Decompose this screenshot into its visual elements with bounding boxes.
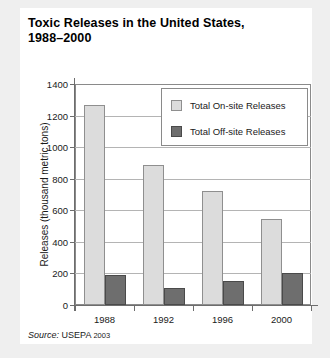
y-axis-tick	[70, 147, 75, 148]
y-axis-tick-label: 1000	[47, 142, 68, 153]
x-axis-tick	[311, 305, 312, 311]
y-axis-tick-label: 1400	[47, 79, 68, 90]
x-axis-tick-label: 2000	[271, 314, 292, 325]
y-axis-tick	[70, 116, 75, 117]
x-axis-tick-label: 1996	[212, 314, 233, 325]
y-axis-tick	[70, 179, 75, 180]
x-axis-tick-label: 1988	[94, 314, 115, 325]
y-axis-tick-label: 0	[63, 300, 68, 311]
y-axis-tick-label: 1200	[47, 110, 68, 121]
source-agency: USEPA	[62, 330, 91, 340]
source-label: Source:	[28, 330, 59, 340]
y-axis-tick	[70, 84, 75, 85]
source-year: 2003	[93, 331, 110, 340]
gridline	[75, 210, 311, 211]
legend-label-onsite: Total On-site Releases	[190, 100, 286, 111]
x-axis-tick	[193, 305, 194, 311]
y-axis-tick	[70, 242, 75, 243]
y-axis-tick-label: 400	[52, 236, 68, 247]
y-axis-tick	[70, 210, 75, 211]
source-note: Source: USEPA 2003	[28, 330, 110, 340]
x-axis-line	[74, 305, 318, 306]
gridline	[75, 147, 311, 148]
bar-2000-offsite	[282, 273, 303, 305]
x-axis-tick	[75, 305, 76, 311]
bar-1992-offsite	[164, 288, 185, 305]
x-axis-tick-label: 1992	[153, 314, 174, 325]
chart-legend: Total On-site Releases Total Off-site Re…	[161, 88, 308, 146]
y-axis-tick-label: 200	[52, 268, 68, 279]
legend-label-offsite: Total Off-site Releases	[190, 126, 285, 137]
bar-1996-onsite	[202, 191, 223, 305]
x-axis-tick	[134, 305, 135, 311]
x-axis-tick	[252, 305, 253, 311]
bar-1996-offsite	[223, 281, 244, 305]
plot-area: 0200400600800100012001400 19881992199620…	[75, 84, 312, 305]
legend-item-onsite: Total On-site Releases	[171, 98, 286, 112]
chart-figure: Toxic Releases in the United States, 198…	[20, 8, 312, 344]
y-axis-line	[74, 78, 75, 311]
bar-1988-onsite	[84, 105, 105, 305]
chart-title: Toxic Releases in the United States, 198…	[28, 16, 304, 46]
bar-1988-offsite	[105, 275, 126, 305]
gridline	[75, 179, 311, 180]
bar-2000-onsite	[261, 219, 282, 305]
chart-title-line-2: 1988–2000	[28, 31, 91, 45]
legend-swatch-offsite-icon	[171, 126, 182, 137]
bar-1992-onsite	[143, 165, 164, 305]
legend-swatch-onsite-icon	[171, 100, 182, 111]
y-axis-tick-label: 800	[52, 173, 68, 184]
y-axis-tick	[70, 273, 75, 274]
legend-item-offsite: Total Off-site Releases	[171, 124, 285, 138]
chart-title-line-1: Toxic Releases in the United States,	[28, 16, 245, 30]
y-axis-tick-label: 600	[52, 205, 68, 216]
